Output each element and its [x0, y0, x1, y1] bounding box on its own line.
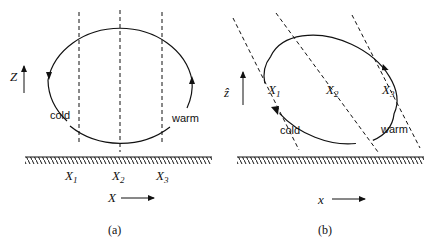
- descending-arrow-icon: [271, 106, 279, 115]
- cold-label: cold: [280, 124, 300, 136]
- cold-label: cold: [50, 109, 70, 121]
- z-axis-label: ẑ: [223, 85, 230, 100]
- warm-label: warm: [380, 123, 408, 135]
- warm-label: warm: [171, 112, 199, 124]
- x-axis-label: x: [317, 192, 324, 207]
- x1-label: X1: [267, 82, 280, 99]
- ground-hatch: [237, 157, 424, 164]
- x2-label: X2: [111, 168, 125, 185]
- x1-label: X1: [64, 168, 77, 185]
- circulation-loop-lower: [70, 126, 170, 143]
- panel-a: cold warm Z X1 X2 X3 X (a): [10, 10, 212, 237]
- caption-a: (a): [108, 223, 121, 237]
- x3-label: X3: [155, 168, 169, 185]
- ascending-arrow-icon: [189, 76, 195, 84]
- x-axis-label: X: [107, 190, 117, 205]
- z-axis-label: Z: [10, 69, 18, 84]
- x3-label: X3: [381, 82, 395, 99]
- caption-b: (b): [318, 223, 332, 237]
- circulation-diagram: cold warm Z X1 X2 X3 X (a) cold warm X: [0, 0, 431, 243]
- descending-arrow-icon: [46, 72, 52, 80]
- panel-b: cold warm X1 X2 X3 ẑ x (b): [223, 13, 424, 237]
- x2-label: X2: [325, 82, 339, 99]
- ground-hatch: [25, 157, 212, 164]
